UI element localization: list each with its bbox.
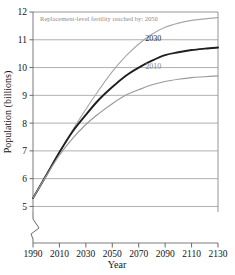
x-axis-tick-labels: 19902010203020502070209021102130 — [24, 249, 228, 259]
y-axis-tick-label: 11 — [18, 35, 27, 45]
y-axis-break-icon — [31, 212, 39, 243]
x-axis-tick-label: 2050 — [103, 249, 122, 259]
y-axis-tick-label: 6 — [22, 174, 27, 184]
x-axis-tick-label: 2010 — [50, 249, 69, 259]
x-axis-tick-label: 1990 — [24, 249, 43, 259]
series-label-2030: 2030 — [145, 34, 161, 43]
y-axis-tick-label: 10 — [18, 63, 28, 73]
x-axis-tick-label: 2090 — [156, 249, 175, 259]
x-axis-ticks — [33, 243, 218, 248]
chart-canvas: 56789101112 1990201020302050207020902110… — [0, 0, 235, 275]
x-axis-tick-label: 2030 — [76, 249, 95, 259]
y-axis-tick-label: 9 — [22, 91, 27, 101]
series-label-2010: 2010 — [145, 62, 161, 71]
y-axis-ticks — [30, 12, 34, 206]
y-axis-tick-label: 8 — [22, 119, 27, 129]
x-axis-title: Year — [108, 259, 127, 270]
x-axis-tick-label: 2130 — [209, 249, 228, 259]
population-projection-chart: 56789101112 1990201020302050207020902110… — [0, 0, 235, 275]
y-axis-tick-labels: 56789101112 — [18, 7, 28, 211]
x-axis-tick-label: 2110 — [182, 249, 201, 259]
y-axis-title: Population (billions) — [2, 71, 14, 154]
y-axis-tick-label: 7 — [22, 146, 27, 156]
replacement-fertility-annotation: Replacement-level fertility reached by: … — [40, 15, 159, 22]
plot-background — [33, 12, 218, 212]
y-axis-tick-label: 5 — [22, 202, 27, 212]
x-axis-tick-label: 2070 — [129, 249, 148, 259]
y-axis-tick-label: 12 — [18, 7, 28, 17]
